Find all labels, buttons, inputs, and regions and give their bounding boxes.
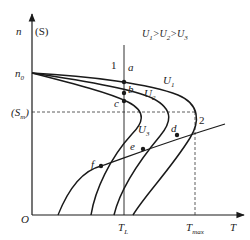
line-1-label: 1: [111, 60, 117, 71]
voltage-condition: U1>U2>U3: [142, 29, 188, 42]
point-f-label: f: [91, 159, 94, 170]
x-axis-label: T: [230, 222, 236, 233]
u3-label: U3: [138, 124, 149, 138]
origin-label: O: [21, 214, 29, 225]
point-f: [99, 164, 103, 168]
point-b: [122, 91, 126, 95]
point-e-label: e: [130, 141, 135, 152]
point-e: [141, 147, 145, 151]
tmax-label: Tmax: [186, 222, 204, 236]
curve-u1: [32, 73, 196, 215]
point-c-label: c: [114, 98, 119, 109]
u2-label: U2: [144, 88, 155, 102]
sm-label: (Sm): [11, 107, 29, 121]
line-2-label: 2: [199, 115, 205, 126]
point-a: [122, 80, 126, 84]
y-axis-alt-label: (S): [35, 26, 48, 37]
point-b-label: b: [128, 84, 134, 95]
u1-label: U1: [163, 75, 174, 89]
point-d-label: d: [171, 123, 177, 134]
y-axis-label: n: [16, 26, 22, 37]
tl-label: TL: [118, 222, 128, 236]
point-a-label: a: [128, 62, 134, 73]
point-c: [122, 99, 126, 103]
n0-label: n0: [15, 68, 24, 82]
